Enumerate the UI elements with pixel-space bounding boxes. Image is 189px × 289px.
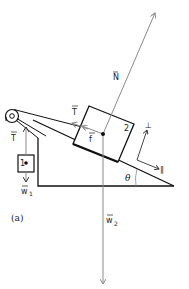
parallel-axis-label: ∥	[160, 165, 164, 174]
angle-theta: θ	[125, 169, 137, 186]
normal-force-arrow: N	[103, 13, 155, 134]
weight-2-subscript: 2	[114, 220, 118, 227]
weight-1-arrow: w 1	[21, 172, 33, 197]
weight-2-label: w	[106, 216, 113, 225]
weight-1-subscript: 1	[29, 190, 33, 197]
block-2-center-dot	[101, 132, 105, 136]
block-2-label: 2	[124, 124, 129, 133]
perp-axis-label: ⊥	[145, 121, 152, 130]
incline-pulley-diagram: 2 N w 2 T f 1 T w 1	[0, 0, 189, 289]
tension-block2-label: T	[71, 108, 77, 117]
normal-force-label: N	[113, 73, 119, 82]
weight-1-label: w	[21, 187, 28, 196]
tension-block1-label: T	[10, 134, 16, 143]
pulley	[6, 110, 19, 123]
coordinate-axes: ⊥ ∥	[137, 121, 164, 174]
panel-label: (a)	[11, 213, 23, 223]
friction-label: f	[89, 135, 92, 144]
tension-block1-arrow: T	[10, 127, 26, 155]
block-1: 1	[18, 155, 34, 172]
angle-label: θ	[125, 173, 131, 183]
